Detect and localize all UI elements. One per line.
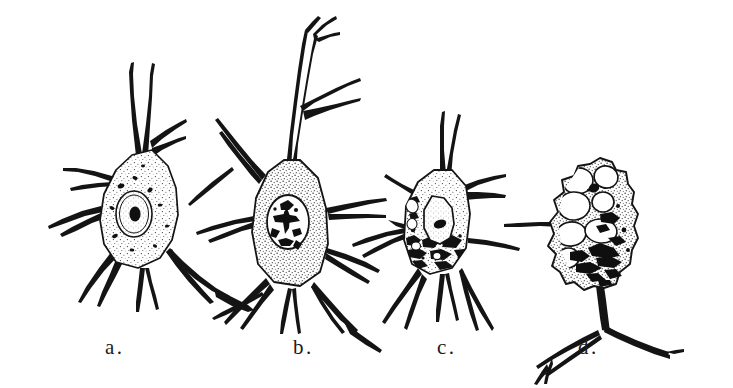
neuron-cell-c [352, 111, 520, 331]
cell-a-nucleolus [129, 207, 140, 222]
panel-label-a: a. [105, 337, 125, 358]
figure-root: a. b. c. d. [0, 0, 733, 388]
neuron-cell-a [48, 62, 264, 320]
panel-label-c: c. [437, 337, 457, 358]
panel-label-b: b. [293, 337, 314, 358]
neuron-figure-illustration [0, 0, 733, 388]
panel-label-d: d. [578, 337, 599, 358]
